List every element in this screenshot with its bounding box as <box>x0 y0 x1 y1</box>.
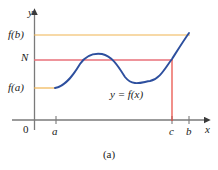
x-value-label-c: c <box>169 126 174 137</box>
y-value-label-fb: f(b) <box>8 29 24 40</box>
x-value-label-a: a <box>52 126 58 137</box>
plot-svg <box>0 0 218 170</box>
y-axis-label: y <box>28 7 33 18</box>
x-axis-label: x <box>205 124 210 135</box>
origin-label: 0 <box>23 124 29 135</box>
figure-caption: (a) <box>0 148 218 160</box>
y-value-label-n: N <box>21 52 28 63</box>
figure-container: y f(b) N f(a) 0 a c b x y = f(x) (a) <box>0 0 218 170</box>
curve-label: y = f(x) <box>110 89 143 100</box>
y-value-label-fa: f(a) <box>8 82 24 93</box>
x-value-label-b: b <box>186 126 192 137</box>
